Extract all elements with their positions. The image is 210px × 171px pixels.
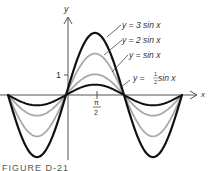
label-2-sin-x: y = 2 sin x	[121, 35, 161, 45]
label-half-suffix: sin x	[158, 73, 176, 83]
label-half-sin-x: y =	[132, 73, 145, 83]
label-half-num: 1	[154, 71, 157, 77]
x-axis-label: x	[200, 90, 206, 99]
x-tick-label-num: π	[94, 99, 99, 106]
figure-caption: FIGURE D-21	[2, 163, 69, 171]
label-3-sin-x: y = 3 sin x	[121, 20, 161, 30]
leader-3	[107, 25, 121, 37]
sine-amplitude-figure: y x 1 π 2 y = 3 sin x y = 2 sin x y = si…	[0, 0, 210, 171]
label-half-den: 2	[154, 79, 157, 85]
y-tick-label: 1	[56, 70, 61, 80]
y-axis-label: y	[63, 4, 69, 14]
label-sin-x: y = sin x	[128, 50, 161, 60]
leader-2	[104, 40, 122, 55]
x-tick-label-den: 2	[94, 109, 98, 116]
